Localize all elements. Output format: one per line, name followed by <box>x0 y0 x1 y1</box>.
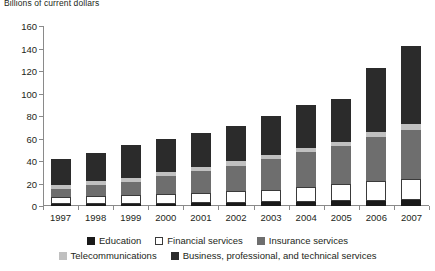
x-axis-tick-mark <box>289 206 290 210</box>
x-axis-tick-label: 2006 <box>366 212 387 223</box>
bar-segment <box>156 176 176 193</box>
y-axis-tick-label: 160 <box>3 21 43 32</box>
x-axis-tick-mark <box>218 206 219 210</box>
legend-label: Education <box>99 234 141 248</box>
y-axis-tick-mark <box>39 71 43 72</box>
bar-stack <box>51 159 71 206</box>
bar-stack <box>366 68 386 206</box>
legend-item[interactable]: Telecommunications <box>59 249 157 263</box>
x-axis-tick-mark <box>254 206 255 210</box>
legend-item[interactable]: Business, professional, and technical se… <box>171 249 377 263</box>
bar-segment <box>366 68 386 133</box>
y-axis-tick-mark <box>39 116 43 117</box>
bar-segment <box>366 137 386 181</box>
x-axis-tick-label: 1998 <box>85 212 106 223</box>
x-axis-tick-label: 2007 <box>401 212 422 223</box>
bar-segment <box>86 196 106 204</box>
bar-segment <box>86 153 106 181</box>
bar-segment <box>331 146 351 183</box>
x-axis-tick-mark <box>394 206 395 210</box>
y-axis-tick-label: 120 <box>3 66 43 77</box>
x-axis-tick-mark <box>43 206 44 210</box>
legend-row: EducationFinancial servicesInsurance ser… <box>0 234 435 248</box>
bar-segment <box>261 202 281 206</box>
plot-area: 020406080100120140160 199719981999200020… <box>43 26 429 206</box>
x-axis-tick-mark <box>148 206 149 210</box>
y-axis-tick-mark <box>39 139 43 140</box>
bar-stack <box>191 133 211 206</box>
y-axis-tick-label: 60 <box>3 133 43 144</box>
chart-title: Billions of current dollars <box>4 0 99 8</box>
legend-item[interactable]: Education <box>87 234 141 248</box>
bar-segment <box>121 195 141 204</box>
bar-segment <box>401 200 421 206</box>
bar-segment <box>261 116 281 155</box>
bar-stack <box>401 46 421 206</box>
legend-swatch-icon <box>257 237 265 245</box>
x-axis-tick-mark <box>429 206 430 210</box>
bar-segment <box>86 185 106 196</box>
bar-segment <box>156 204 176 206</box>
bar-segment <box>156 139 176 172</box>
legend-row: TelecommunicationsBusiness, professional… <box>0 249 435 263</box>
x-axis-tick-mark <box>183 206 184 210</box>
legend-label: Financial services <box>167 234 243 248</box>
y-axis-line <box>43 26 44 206</box>
legend-item[interactable]: Financial services <box>155 234 243 248</box>
bar-stack <box>226 126 246 206</box>
bar-segment <box>401 130 421 180</box>
bar-segment <box>331 201 351 206</box>
x-axis-tick-label: 1999 <box>120 212 141 223</box>
x-axis-tick-mark <box>359 206 360 210</box>
bar-segment <box>191 193 211 204</box>
bar-segment <box>226 126 246 161</box>
bar-segment <box>261 159 281 189</box>
legend-swatch-icon <box>87 237 95 245</box>
bar-stack <box>331 99 351 206</box>
bar-segment <box>51 159 71 185</box>
legend-swatch-icon <box>59 252 67 260</box>
bar-segment <box>226 166 246 192</box>
y-axis-tick-mark <box>39 49 43 50</box>
legend-item[interactable]: Insurance services <box>257 234 348 248</box>
bar-segment <box>156 194 176 204</box>
legend-label: Business, professional, and technical se… <box>183 249 377 263</box>
chart-container: Billions of current dollars 020406080100… <box>0 0 435 271</box>
x-axis-tick-label: 2000 <box>155 212 176 223</box>
bar-segment <box>331 99 351 142</box>
y-axis-tick-mark <box>39 184 43 185</box>
y-axis-tick-label: 140 <box>3 43 43 54</box>
y-axis-tick-label: 80 <box>3 111 43 122</box>
legend-label: Telecommunications <box>71 249 157 263</box>
x-axis-tick-mark <box>324 206 325 210</box>
bar-segment <box>261 190 281 203</box>
x-axis-tick-mark <box>113 206 114 210</box>
bar-segment <box>401 179 421 200</box>
bar-segment <box>121 182 141 196</box>
legend-swatch-icon <box>171 252 179 260</box>
bar-segment <box>401 46 421 124</box>
bar-segment <box>296 105 316 148</box>
bar-segment <box>51 189 71 197</box>
bar-segment <box>86 204 106 206</box>
legend-label: Insurance services <box>269 234 348 248</box>
bar-segment <box>191 171 211 192</box>
bar-segment <box>191 133 211 167</box>
bar-segment <box>121 145 141 177</box>
y-axis-tick-mark <box>39 26 43 27</box>
x-axis-tick-mark <box>78 206 79 210</box>
x-axis-tick-label: 1997 <box>50 212 71 223</box>
bar-segment <box>331 184 351 202</box>
x-axis-tick-label: 2005 <box>331 212 352 223</box>
x-axis-tick-label: 2001 <box>190 212 211 223</box>
y-axis-tick-label: 20 <box>3 178 43 189</box>
y-axis-tick-label: 100 <box>3 88 43 99</box>
bar-segment <box>51 197 71 204</box>
bar-segment <box>121 204 141 206</box>
chart-legend: EducationFinancial servicesInsurance ser… <box>0 234 435 264</box>
y-axis-tick-mark <box>39 161 43 162</box>
x-axis-tick-label: 2002 <box>225 212 246 223</box>
y-axis-tick-label: 0 <box>3 201 43 212</box>
y-axis-tick-mark <box>39 94 43 95</box>
bar-stack <box>156 139 176 207</box>
